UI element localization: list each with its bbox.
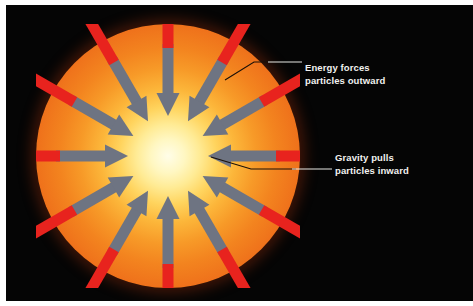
diagram-panel: Energy forces particles outward Gravity …: [6, 5, 473, 301]
energy-callout-line2: particles outward: [305, 75, 385, 88]
gravity-callout-line2: particles inward: [335, 165, 409, 178]
gravity-callout-label: Gravity pulls particles inward: [335, 152, 409, 177]
gravity-callout-line1: Gravity pulls: [335, 152, 409, 165]
energy-callout-label: Energy forces particles outward: [305, 62, 385, 87]
star-sphere: [36, 24, 300, 288]
energy-callout-line1: Energy forces: [305, 62, 385, 75]
figure-root: Energy forces particles outward Gravity …: [0, 0, 473, 306]
